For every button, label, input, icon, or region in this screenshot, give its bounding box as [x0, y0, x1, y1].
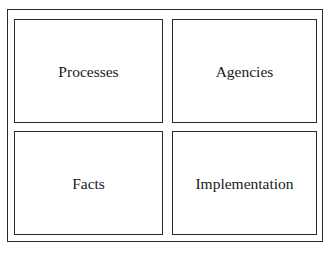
box-label: Agencies — [216, 63, 274, 81]
box-processes: Processes — [14, 19, 163, 123]
box-facts: Facts — [14, 131, 163, 235]
box-label: Processes — [58, 63, 118, 81]
box-label: Implementation — [195, 175, 293, 193]
box-agencies: Agencies — [172, 19, 317, 123]
box-implementation: Implementation — [172, 131, 317, 235]
box-label: Facts — [72, 175, 105, 193]
